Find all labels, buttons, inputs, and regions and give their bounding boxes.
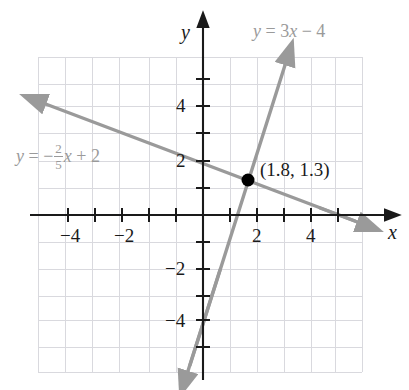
equation-line2-variable: x xyxy=(64,146,72,166)
y-tick-label--4: −4 xyxy=(165,311,185,330)
graph-figure: −4 −2 2 4 4 2 −2 −4 y x y = 3x − 4 y = −… xyxy=(0,0,409,390)
equation-label-line1: y = 3x − 4 xyxy=(253,22,325,40)
y-tick-label-4: 4 xyxy=(176,96,186,115)
y-axis-label: y xyxy=(181,22,190,42)
x-tick-label-4: 4 xyxy=(306,226,316,245)
fraction-denominator: 5 xyxy=(54,158,63,171)
x-tick-label-2: 2 xyxy=(252,226,262,245)
intersection-point-label: (1.8, 1.3) xyxy=(260,160,330,179)
intersection-point-marker xyxy=(242,174,255,187)
equation-line1-operator: = 3 xyxy=(261,21,289,41)
equation-line2-fraction: 2 5 xyxy=(54,142,63,172)
y-tick-label--2: −2 xyxy=(165,259,185,278)
equation-line1-lhs: y xyxy=(253,21,261,41)
equation-line2-lhs: y xyxy=(16,146,24,166)
equation-line2-tail: + 2 xyxy=(72,146,100,166)
equation-label-line2: y = − 2 5 x + 2 xyxy=(16,143,100,173)
x-tick-label--2: −2 xyxy=(114,226,134,245)
coordinate-plane xyxy=(0,0,409,390)
y-tick-label-2: 2 xyxy=(176,151,186,170)
x-axis-label: x xyxy=(388,222,397,242)
equation-line1-variable: x xyxy=(289,21,297,41)
equation-line1-tail: − 4 xyxy=(297,21,325,41)
fraction-numerator: 2 xyxy=(54,142,63,155)
equation-line2-operator: = − xyxy=(24,146,53,166)
x-tick-label--4: −4 xyxy=(60,226,80,245)
